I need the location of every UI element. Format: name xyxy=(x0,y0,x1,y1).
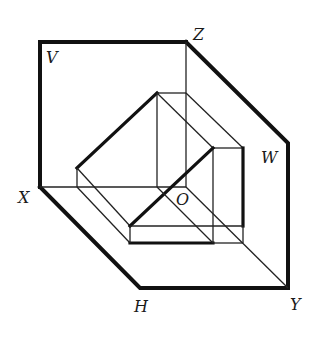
label-z: Z xyxy=(193,27,204,43)
object xyxy=(77,93,243,243)
label-v: V xyxy=(46,50,58,66)
label-h: H xyxy=(134,299,148,315)
label-o: O xyxy=(176,192,189,208)
axes xyxy=(40,42,288,288)
label-y: Y xyxy=(290,297,301,313)
y-axis xyxy=(186,187,288,288)
v-plane-border xyxy=(40,42,186,187)
label-w: W xyxy=(261,150,277,166)
label-x: X xyxy=(18,190,29,206)
h-plane-border xyxy=(40,187,288,288)
object-left-recede-1 xyxy=(77,168,130,226)
object-recede-edge-1 xyxy=(157,93,213,148)
object-recede-edge-2 xyxy=(186,93,243,148)
object-top-slope-edge xyxy=(77,93,157,168)
